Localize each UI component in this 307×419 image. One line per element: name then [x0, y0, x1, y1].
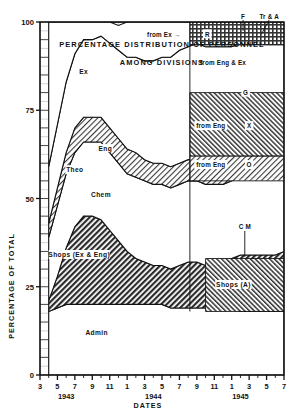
y-tick-label: 100	[21, 18, 34, 27]
annotation-label: Shops (Ex & Eng)	[48, 251, 110, 259]
annotation-label: R	[205, 31, 210, 38]
annotation-label: Eng	[99, 145, 113, 153]
area-admin	[49, 304, 284, 375]
chart-figure: 025507510035791113579111357194319441945 …	[0, 0, 307, 419]
y-tick-label: 50	[26, 195, 34, 204]
x-tick-label: 9	[195, 382, 199, 391]
x-tick-label: 11	[106, 382, 114, 391]
y-tick-label: 25	[26, 283, 35, 292]
x-tick-label: 5	[55, 382, 59, 391]
x-tick-label: 7	[73, 382, 77, 391]
annotation-label: from Eng	[196, 161, 225, 169]
x-tick-label: 7	[282, 382, 286, 391]
annotation-label: Chem	[91, 191, 111, 198]
y-tick-label: 0	[30, 371, 34, 380]
x-tick-label: 5	[265, 382, 269, 391]
x-year-label: 1945	[232, 392, 248, 401]
y-tick-label: 75	[26, 106, 35, 115]
x-tick-label: 1	[125, 382, 129, 391]
annotation-label: Tr & A	[259, 13, 279, 20]
annotation-label: from Eng & Ex	[200, 59, 246, 67]
annotation-label: Admin	[85, 329, 108, 336]
x-year-label: 1944	[145, 392, 162, 401]
annotation-label: Theo	[66, 166, 83, 173]
annotation-label: G	[243, 89, 248, 96]
annotation-label: O	[247, 161, 252, 168]
annotation-label: Shops (A)	[216, 281, 251, 289]
x-tick-label: 11	[210, 382, 218, 391]
annotation-label: from Ex →	[147, 31, 180, 38]
x-tick-label: 3	[143, 382, 147, 391]
x-tick-label: 3	[38, 382, 42, 391]
annotation-label: from Eng	[196, 122, 225, 130]
chart-svg: 025507510035791113579111357194319441945 …	[0, 0, 307, 419]
annotation-label: C M	[239, 223, 251, 230]
x-axis-label: DATES	[134, 401, 163, 410]
x-year-label: 1943	[58, 392, 74, 401]
chart-title-line1: PERCENTAGE DISTRIBUTION OF PERSONNEL	[59, 40, 264, 49]
x-tick-label: 9	[90, 382, 94, 391]
annotation-label: F	[241, 13, 245, 20]
chart-title-line2: AMONG DIVISIONS	[120, 58, 204, 67]
x-tick-label: 3	[247, 382, 251, 391]
annotation-label: Ex	[79, 68, 88, 75]
x-tick-label: 7	[177, 382, 181, 391]
x-tick-label: 5	[160, 382, 164, 391]
annotation-label: X	[247, 122, 252, 129]
x-tick-label: 1	[230, 382, 234, 391]
y-axis-label: PERCENTAGE OF TOTAL	[7, 233, 16, 339]
